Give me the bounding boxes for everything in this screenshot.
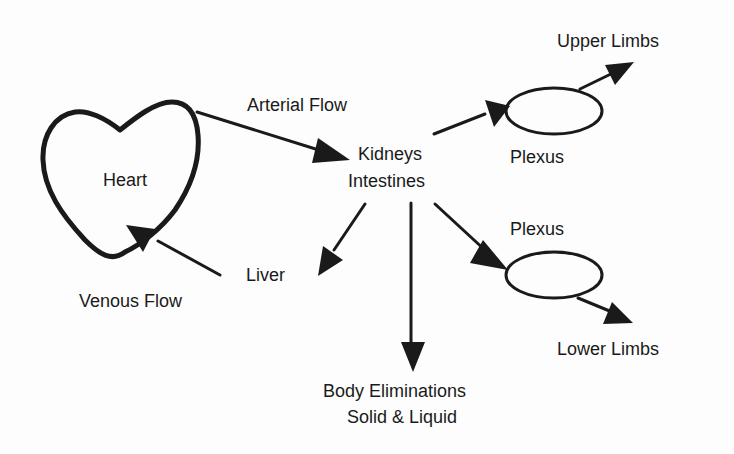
arterial-flow-arrow — [197, 112, 350, 163]
lower-plexus-label: Plexus — [510, 219, 564, 239]
lower-limbs-label: Lower Limbs — [557, 339, 659, 359]
kidneys-label: Kidneys — [358, 144, 422, 164]
venous-flow-arrow — [126, 225, 220, 275]
to-upper-limbs-arrow — [580, 62, 634, 89]
upper-plexus-ellipse — [506, 88, 602, 134]
lower-plexus-ellipse — [506, 252, 602, 298]
arterial-flow-label: Arterial Flow — [247, 95, 348, 115]
to-liver-arrow — [318, 204, 365, 276]
upper-limbs-label: Upper Limbs — [557, 31, 659, 51]
intestines-label: Intestines — [348, 171, 425, 191]
to-lower-plexus-arrow — [435, 204, 508, 270]
to-body-eliminations-arrow — [401, 203, 425, 372]
venous-flow-label: Venous Flow — [79, 291, 183, 311]
upper-plexus-label: Plexus — [510, 147, 564, 167]
heart-label: Heart — [103, 170, 147, 190]
body-eliminations-label: Body Eliminations — [323, 381, 466, 401]
circulation-diagram: Heart Arterial Flow Kidneys Intestines P… — [0, 0, 734, 454]
to-lower-limbs-arrow — [578, 298, 633, 324]
liver-label: Liver — [246, 265, 285, 285]
solid-liquid-label: Solid & Liquid — [347, 407, 457, 427]
to-upper-plexus-arrow — [434, 100, 510, 134]
